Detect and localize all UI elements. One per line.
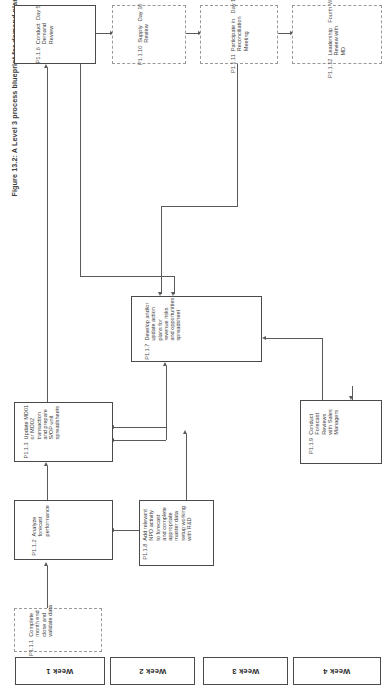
node-id-p118: P1.1.8 (142, 544, 148, 560)
swimlane-label-week4: Week 4 (293, 657, 381, 685)
node-label-p1110: Supply Review (137, 25, 150, 43)
node-text-p1112: P1.1.12 Leadership Review with MD Fourth… (293, 6, 381, 63)
connector-p111-p112 (47, 566, 48, 608)
process-node-p119[interactable]: P1.1.9 Conduct Forecast Reviews with Sal… (300, 400, 382, 464)
node-text-p111: P1.1.1 Complete month end close and vali… (15, 609, 101, 651)
arrowhead-p116-bottom (44, 64, 48, 68)
node-id-p1111: P1.1.11 (230, 54, 236, 73)
process-node-p112[interactable]: P1.1.2 Analyze forecast performance (14, 500, 113, 560)
arrowhead-p113-bottom (44, 462, 48, 466)
node-timing-p1111: Day 15 (230, 0, 236, 14)
process-node-p116[interactable]: P1.1.6 Conduct Demand Review Day 5 (14, 5, 96, 64)
process-node-p111[interactable]: P1.1.1 Complete month end close and vali… (14, 608, 102, 652)
process-node-p117[interactable]: P1.1.7 Develop and/or update action plan… (131, 296, 262, 362)
connector-p112-p113 (47, 466, 48, 500)
node-label-p111: Complete month end close and validate da… (28, 605, 53, 637)
node-id-p1112: P1.1.12 (327, 59, 333, 78)
node-text-p112: P1.1.2 Analyze forecast performance (15, 501, 112, 559)
node-label-p112: Analyze forecast performance (31, 505, 50, 536)
node-text-p117: P1.1.7 Develop and/or update action plan… (132, 297, 261, 361)
node-label-p118: Add relevant NPD activity to forecast an… (142, 506, 192, 541)
connector-bus-to-p117 (80, 276, 174, 277)
node-timing-p1112: Fourth Week (327, 0, 333, 23)
node-label-p1111: Participate in Reconciliation Meeting (230, 17, 249, 52)
connector-p1111-bus-down (161, 206, 162, 294)
node-text-p1110: P1.1.10 Supply Review Day 10 (113, 6, 185, 63)
arrowhead-p117-right (262, 336, 266, 340)
node-id-p116: P1.1.6 (35, 47, 41, 63)
connector-p1111-bus (161, 206, 238, 207)
node-timing-p1110: Day 10 (137, 4, 143, 22)
process-node-p1112[interactable]: P1.1.12 Leadership Review with MD Fourth… (292, 5, 382, 64)
connector-p1111-down (237, 64, 238, 206)
node-label-p116: Conduct Demand Review (35, 23, 54, 44)
connector-p119-up (322, 338, 323, 400)
node-text-p118: P1.1.8 Add relevant NPD activity to fore… (140, 501, 213, 565)
swimlane-label-week1: Week 1 (15, 657, 105, 685)
diagram-canvas: Figure 13.2: A Level 3 process blueprint… (0, 0, 388, 690)
node-text-p113: P1.1.3 Update MD01 or MD02 transaction a… (15, 403, 112, 461)
node-text-p116: P1.1.6 Conduct Demand Review Day 5 (15, 6, 95, 63)
process-node-p118[interactable]: P1.1.8 Add relevant NPD activity to fore… (139, 500, 214, 566)
process-node-p1111[interactable]: P1.1.11 Participate in Reconciliation Me… (200, 5, 278, 64)
node-id-p113: P1.1.3 (23, 443, 29, 459)
node-label-p113: Update MD01 or MD02 transaction and prep… (23, 405, 61, 440)
node-id-p119: P1.1.9 (308, 438, 314, 454)
node-id-p112: P1.1.2 (31, 539, 37, 555)
node-text-p1111: P1.1.11 Participate in Reconciliation Me… (201, 6, 277, 63)
node-text-p119: P1.1.9 Conduct Forecast Reviews with Sal… (301, 401, 381, 463)
node-label-p117: Develop and/or update action plans for r… (144, 298, 182, 341)
node-label-p1112: Leadership Review with MD (327, 26, 346, 56)
connector-p118-to-bus (186, 434, 187, 500)
swimlane-label-week2: Week 2 (110, 657, 195, 685)
node-label-p119: Conduct Forecast Reviews with Sales Mana… (308, 410, 339, 436)
connector-p119-p117 (266, 338, 322, 339)
connector-p113-out-a (113, 427, 166, 428)
connector-p113-out-b (113, 440, 166, 441)
node-id-p117: P1.1.7 (144, 344, 150, 360)
arrowhead-p117-bottom (163, 362, 167, 366)
connector-p116-down (80, 64, 81, 276)
connector-p113-p116 (47, 68, 48, 402)
process-node-p113[interactable]: P1.1.3 Update MD01 or MD02 transaction a… (14, 402, 113, 462)
node-id-p1110: P1.1.10 (137, 46, 143, 65)
arrowhead-p112-bottom (44, 562, 48, 566)
swimlane-label-week3: Week 3 (203, 657, 288, 685)
connector-p118-p113 (113, 530, 139, 531)
node-timing-p116: Day 5 (35, 6, 41, 21)
node-id-p111: P1.1.1 (28, 639, 34, 655)
connector-p113-riser (166, 366, 167, 440)
process-node-p1110[interactable]: P1.1.10 Supply Review Day 10 (112, 5, 186, 64)
